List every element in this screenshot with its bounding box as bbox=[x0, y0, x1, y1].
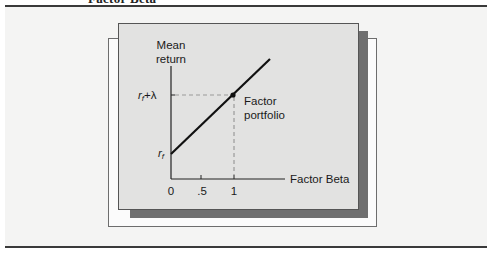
y-tick-label-rf: rf bbox=[158, 147, 165, 161]
x-tick-label-0: 0 bbox=[168, 185, 174, 197]
annotation-line1: Factor bbox=[244, 95, 277, 107]
y-tick-label-rf-lambda: rf+λ bbox=[138, 89, 157, 103]
annotation-line2: portfolio bbox=[244, 109, 285, 121]
x-tick-label-1: 1 bbox=[231, 185, 237, 197]
y-axis-label-line2: return bbox=[156, 53, 186, 65]
factor-beta-chart: Mean return rf+λ rf 0 .5 1 Factor Beta F… bbox=[0, 0, 497, 256]
y-axis-label-line1: Mean bbox=[157, 39, 186, 51]
x-axis-label: Factor Beta bbox=[290, 173, 350, 185]
factor-portfolio-point bbox=[230, 92, 235, 97]
x-tick-label-half: .5 bbox=[197, 185, 207, 197]
